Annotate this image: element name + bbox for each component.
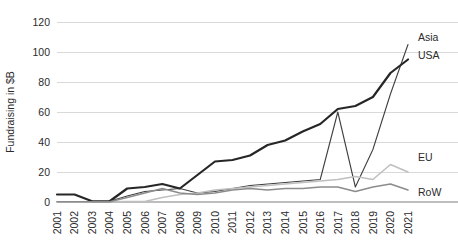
- line-chart: 020406080100120Fundraising in $B20012002…: [0, 0, 458, 252]
- series-line-usa: [57, 60, 408, 202]
- series-label-asia: Asia: [418, 31, 439, 43]
- series-line-asia: [57, 45, 408, 202]
- y-axis-tick-label: 80: [38, 76, 50, 88]
- x-axis-tick-label: 2010: [209, 211, 221, 235]
- x-axis-tick-label: 2017: [332, 211, 344, 235]
- series-label-row: RoW: [418, 186, 441, 198]
- x-axis-tick-label: 2006: [139, 211, 151, 235]
- y-axis-tick-label: 0: [44, 196, 50, 208]
- x-axis-tick-label: 2008: [174, 211, 186, 235]
- x-axis-tick-label: 2002: [68, 211, 80, 235]
- y-axis-tick-label: 20: [38, 166, 50, 178]
- y-axis-tick-label: 120: [32, 16, 50, 28]
- y-axis-tick-label: 60: [38, 106, 50, 118]
- x-axis-tick-label: 2009: [191, 211, 203, 235]
- x-axis-tick-label: 2007: [156, 211, 168, 235]
- x-axis-tick-label: 2021: [402, 211, 414, 235]
- x-axis-tick-label: 2018: [349, 211, 361, 235]
- x-axis-tick-label: 2005: [121, 211, 133, 235]
- x-axis-tick-label: 2019: [367, 211, 379, 235]
- x-axis-tick-label: 2001: [51, 211, 63, 235]
- x-axis-tick-label: 2012: [244, 211, 256, 235]
- series-label-eu: EU: [418, 151, 433, 163]
- x-axis-tick-label: 2016: [314, 211, 326, 235]
- x-axis-tick-label: 2004: [103, 211, 115, 235]
- x-axis-tick-label: 2020: [384, 211, 396, 235]
- series-label-usa: USA: [418, 49, 440, 61]
- series-line-eu: [57, 165, 408, 202]
- y-axis-title: Fundraising in $B: [4, 71, 16, 153]
- x-axis-tick-label: 2003: [86, 211, 98, 235]
- x-axis-tick-label: 2011: [226, 211, 238, 234]
- x-axis-tick-label: 2013: [261, 211, 273, 235]
- chart-canvas: 020406080100120Fundraising in $B20012002…: [0, 0, 458, 252]
- y-axis-tick-label: 40: [38, 136, 50, 148]
- x-axis-tick-label: 2014: [279, 211, 291, 235]
- x-axis-tick-label: 2015: [297, 211, 309, 235]
- y-axis-tick-label: 100: [32, 46, 50, 58]
